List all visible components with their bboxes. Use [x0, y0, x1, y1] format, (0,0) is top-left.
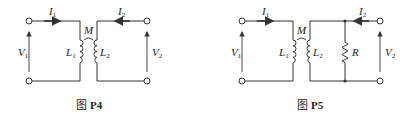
svg-text:I2: I2 [117, 5, 126, 19]
terminal [26, 18, 32, 24]
terminal [377, 18, 383, 24]
svg-text:I2: I2 [358, 5, 367, 19]
svg-text:M: M [83, 24, 94, 36]
inductor-l2 [307, 40, 310, 63]
circuit-diagrams: I1 I2 M L1 L2 V1 V2 图P4 [0, 0, 412, 117]
terminal [144, 18, 150, 24]
mutual-coupling-arc [297, 38, 306, 40]
figure-p4: I1 I2 M L1 L2 V1 V2 图P4 [18, 5, 163, 111]
terminal [239, 78, 245, 84]
junction-dot [343, 19, 346, 22]
inductor-l2 [94, 40, 97, 63]
svg-text:I1: I1 [261, 5, 270, 19]
figure-p5: I1 I2 M L1 L2 R V1 V2 图P5 [231, 5, 396, 111]
inductor-l1 [80, 40, 83, 63]
terminal [377, 78, 383, 84]
svg-text:L1: L1 [65, 46, 76, 60]
terminal [26, 78, 32, 84]
figure-caption-p4: 图P4 [76, 99, 103, 111]
mutual-coupling-arc [84, 38, 93, 40]
svg-text:I1: I1 [48, 5, 57, 19]
junction-dot [343, 79, 346, 82]
svg-text:M: M [296, 24, 307, 36]
svg-text:R: R [351, 46, 359, 58]
terminal [144, 78, 150, 84]
svg-text:L2: L2 [99, 46, 110, 60]
svg-text:L2: L2 [312, 46, 323, 60]
svg-text:V1: V1 [18, 46, 29, 60]
figure-caption-p5: 图P5 [297, 99, 324, 111]
svg-text:V2: V2 [152, 46, 163, 60]
svg-text:V1: V1 [231, 46, 242, 60]
resistor-r [342, 42, 348, 63]
svg-text:L1: L1 [278, 46, 289, 60]
inductor-l1 [293, 40, 296, 63]
terminal [239, 18, 245, 24]
svg-text:V2: V2 [385, 46, 396, 60]
